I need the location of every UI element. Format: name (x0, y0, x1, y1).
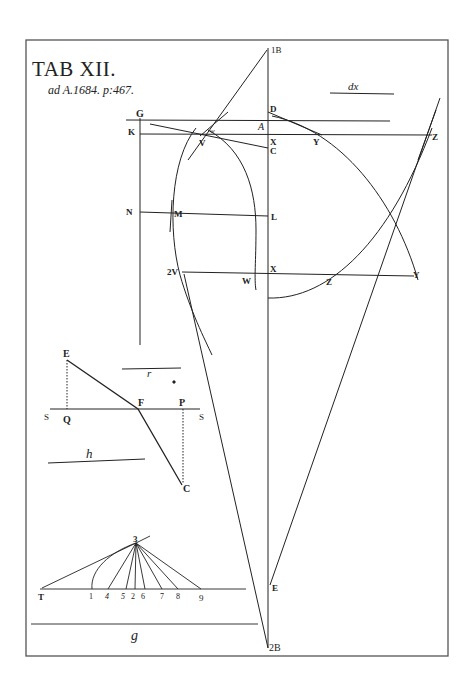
ray-7 (136, 543, 162, 589)
label-z2: Z (326, 277, 332, 287)
scale-h-line (48, 459, 145, 463)
tick-m (170, 200, 172, 232)
ray-6 (136, 543, 145, 589)
ray-8 (136, 543, 178, 589)
label-4: 4 (105, 592, 109, 601)
ray-5 (126, 543, 136, 589)
ray-2 (135, 543, 136, 589)
label-b-bottom: 2B (269, 642, 281, 653)
label-7: 7 (160, 592, 164, 601)
label-y1: Y (313, 137, 320, 147)
label-g: G (136, 108, 144, 119)
label-2: 2 (131, 592, 135, 601)
line-vc (150, 124, 268, 148)
label-dx: dx (348, 80, 359, 92)
label-1: 1 (89, 592, 93, 601)
scale-r-line (122, 368, 181, 369)
line-ze (270, 98, 440, 585)
line-v2b (184, 274, 268, 648)
label-r: r (147, 367, 152, 379)
line-kz (140, 134, 432, 135)
plate-subtitle: ad A.1684. p:467. (48, 83, 134, 97)
label-s-right: S (199, 412, 204, 422)
label-a: A (257, 121, 265, 132)
label-h: h (86, 446, 93, 461)
label-5: 5 (121, 592, 125, 601)
main-figure (126, 48, 440, 648)
label-x2: X (270, 264, 277, 274)
label-apex-3: 3 (133, 534, 138, 544)
label-e-main: E (272, 583, 278, 593)
refraction-labels: E F P Q S S C r h (44, 348, 204, 494)
label-g: g (131, 628, 138, 643)
label-w-small: w (210, 127, 215, 135)
label-8: 8 (176, 592, 180, 601)
label-z1: Z (432, 132, 438, 142)
label-y2: Y (413, 270, 420, 280)
line-nl (140, 212, 268, 216)
line-dy (268, 112, 322, 135)
diagram-plate: TAB XII. ad A.1684. p:467. (0, 0, 472, 694)
fan-figure (31, 536, 258, 624)
curve-dy (272, 116, 418, 280)
label-c: C (270, 146, 277, 156)
label-n: N (126, 207, 133, 217)
curve-left-outer (173, 128, 212, 355)
label-c-refr: C (183, 483, 190, 494)
refraction-figure (48, 360, 200, 485)
label-9: 9 (199, 593, 204, 603)
arc-1 (92, 543, 136, 589)
label-q: Q (63, 414, 71, 425)
label-v2: 2V (167, 267, 179, 277)
label-w: W (242, 276, 251, 286)
ray-efc (67, 360, 182, 485)
label-p: P (179, 397, 185, 408)
label-k: K (128, 127, 135, 137)
dot (173, 381, 175, 383)
ray-ext (136, 536, 150, 543)
plate-frame (26, 40, 448, 656)
curve-xz (268, 128, 432, 298)
label-e: E (63, 348, 70, 359)
label-v1: V (199, 138, 206, 148)
label-m: M (174, 209, 183, 219)
label-d: D (270, 104, 277, 114)
plate-title: TAB XII. (32, 57, 116, 81)
label-l: L (271, 212, 277, 222)
label-6: 6 (141, 592, 145, 601)
label-s-left: S (44, 412, 49, 422)
label-f: F (138, 397, 144, 408)
geometry-canvas: TAB XII. ad A.1684. p:467. (0, 0, 472, 694)
main-figure-labels: 1B G K D A X C Y Z V w N M L 2V W X Z Y … (126, 45, 438, 653)
scale-dx-line (330, 93, 394, 94)
curve-inner (208, 130, 256, 290)
label-b-top: 1B (271, 45, 282, 55)
ray-9 (136, 543, 201, 589)
label-t: T (38, 592, 44, 602)
